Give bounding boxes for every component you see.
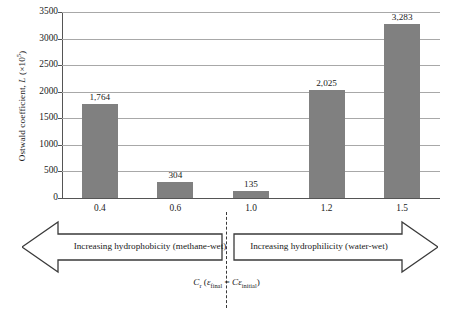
y-tick-label: 1000 — [18, 140, 58, 149]
plot-area: 0500100015002000250030003500 1,764304135… — [62, 12, 440, 198]
bar — [384, 24, 420, 198]
y-tick-mark — [58, 12, 62, 13]
y-tick-label: 1500 — [18, 114, 58, 123]
direction-arrow-banner: Increasing hydrophobicity (methane-wet) … — [22, 218, 438, 276]
y-tick-label: 0 — [18, 193, 58, 202]
y-tick-mark — [58, 92, 62, 93]
caption-close-paren: ) — [257, 277, 260, 287]
x-tick-label: 0.4 — [75, 204, 125, 213]
caption-final-subscript: final — [211, 282, 223, 289]
y-tick-label: 3500 — [18, 7, 58, 16]
x-tick-label: 1.5 — [377, 204, 427, 213]
y-tick-label: 2000 — [18, 87, 58, 96]
y-axis-title-suffix-close: ) — [17, 51, 27, 54]
bar-value-label: 304 — [145, 171, 205, 180]
ostwald-coefficient-bar-chart: Ostwald coefficient, L (×105) 0500100015… — [0, 0, 453, 311]
cr-equation-caption: Cr (εfinal = Cεinitial) — [0, 278, 453, 289]
y-tick-label: 500 — [18, 167, 58, 176]
x-tick-label: 0.6 — [150, 204, 200, 213]
bar — [233, 191, 269, 198]
x-tick-label: 1.0 — [226, 204, 276, 213]
y-tick-mark — [58, 198, 62, 199]
arrow-label-hydrophilicity: Increasing hydrophilicity (water-wet) — [214, 242, 424, 251]
bar-value-label: 2,025 — [297, 79, 357, 88]
y-axis-line — [62, 12, 63, 198]
bar — [157, 182, 193, 198]
caption-equals-sign: = — [222, 277, 232, 287]
y-tick-mark — [58, 145, 62, 146]
y-tick-mark — [58, 118, 62, 119]
y-tick-label: 2500 — [18, 60, 58, 69]
bar — [309, 90, 345, 198]
y-tick-mark — [58, 65, 62, 66]
x-tick-label: 1.2 — [302, 204, 352, 213]
y-tick-mark — [58, 171, 62, 172]
center-dashed-divider — [226, 212, 227, 308]
bar-value-label: 3,283 — [372, 13, 432, 22]
caption-initial-subscript: initial — [242, 282, 257, 289]
bar-value-label: 1,764 — [70, 93, 130, 102]
bar — [82, 104, 118, 198]
y-tick-label: 3000 — [18, 34, 58, 43]
bar-value-label: 135 — [221, 180, 281, 189]
x-axis-line — [62, 198, 440, 199]
y-tick-mark — [58, 39, 62, 40]
y-axis-title-symbol: L — [17, 77, 27, 82]
y-axis-title-exponent: 5 — [15, 54, 22, 57]
